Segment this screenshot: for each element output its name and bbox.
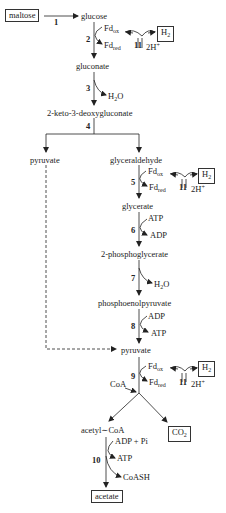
coa-label: CoA: [110, 379, 126, 389]
step-7: 7: [131, 273, 135, 283]
adp-label-6: ADP: [150, 230, 167, 240]
pep-label: phosphoenolpyruvate: [98, 298, 171, 308]
step-3: 3: [86, 83, 90, 93]
adp-label-8: ADP: [148, 311, 165, 321]
gluconate-label: gluconate: [76, 61, 109, 71]
step-11-b: 11: [179, 182, 187, 192]
glycerate-label: glycerate: [122, 201, 153, 211]
step-2: 2: [86, 34, 90, 44]
acetate-box: acetate: [91, 490, 123, 503]
pyruvate-label: pyruvate: [121, 345, 151, 355]
water-label-7: H2O: [154, 279, 169, 292]
atp-label-6: ATP: [148, 213, 163, 223]
protons-label-9: 2H+: [191, 377, 205, 389]
co2-box: CO2: [168, 426, 191, 442]
step-5: 5: [131, 177, 135, 187]
fd-red-label-5: Fdred: [149, 182, 166, 195]
step-11-c: 11: [179, 377, 187, 387]
fd-red-label-9: Fdred: [149, 377, 166, 390]
acetyl-coa-label: acetyl∼CoA: [81, 425, 124, 435]
pyruvate-left-label: pyruvate: [30, 155, 60, 165]
adp-pi-label: ADP + Pi: [115, 436, 148, 446]
fd-ox-label-5: Fdox: [148, 166, 163, 179]
step-6: 6: [131, 225, 135, 235]
h2-box-9: H2: [198, 361, 215, 377]
step-4: 4: [86, 121, 90, 131]
glucose-label: glucose: [81, 11, 107, 21]
step-9: 9: [131, 371, 135, 381]
atp-label-8: ATP: [151, 328, 166, 338]
coash-label: CoASH: [123, 472, 150, 482]
fd-ox-label-9: Fdox: [148, 361, 163, 374]
water-label-3: H2O: [108, 91, 123, 104]
kdg-label: 2-keto-3-deoxygluconate: [47, 108, 132, 118]
phosphoglycerate-label: 2-phosphoglycerate: [101, 249, 168, 259]
h2-box: H2: [157, 26, 174, 42]
step-10: 10: [92, 455, 101, 465]
step-1: 1: [54, 17, 58, 27]
step-11: 11: [134, 40, 142, 50]
maltose-box: maltose: [5, 9, 39, 22]
glyceraldehyde-label: glyceraldehyde: [110, 155, 162, 165]
fd-ox-label: Fdox: [104, 23, 119, 36]
fd-red-label: Fdred: [104, 40, 121, 53]
atp-label-10: ATP: [117, 453, 132, 463]
step-8: 8: [131, 321, 135, 331]
h2-box-5: H2: [198, 168, 215, 184]
